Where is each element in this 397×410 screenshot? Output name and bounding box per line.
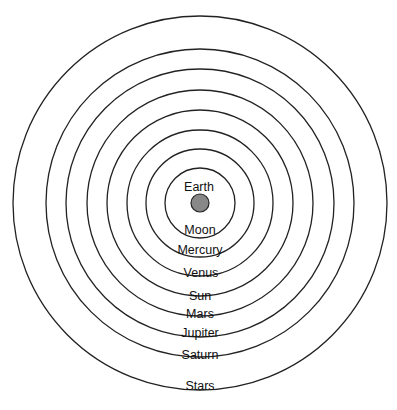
label-stars: Stars bbox=[185, 379, 214, 393]
label-sun: Sun bbox=[189, 289, 211, 303]
label-venus: Venus bbox=[184, 266, 219, 280]
label-jupiter: Jupiter bbox=[181, 326, 219, 340]
label-saturn: Saturn bbox=[182, 348, 219, 362]
label-moon: Moon bbox=[184, 223, 215, 237]
geocentric-diagram: Earth Moon Mercury Venus Sun Mars Jupite… bbox=[0, 0, 397, 410]
label-mercury: Mercury bbox=[177, 243, 223, 257]
earth-icon bbox=[191, 194, 209, 212]
label-earth: Earth bbox=[184, 180, 214, 194]
label-mars: Mars bbox=[186, 307, 214, 321]
